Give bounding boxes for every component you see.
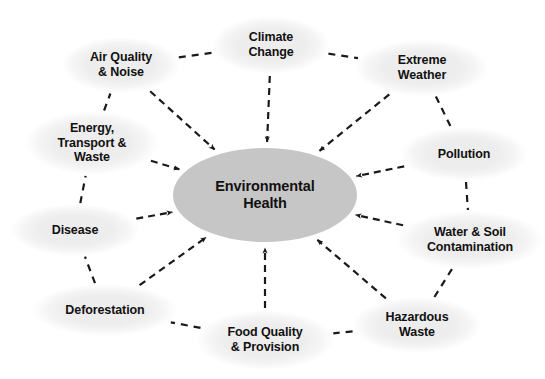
edge-energy-transport-waste-to-air-quality-noise <box>104 94 110 111</box>
node-deforestation[interactable]: Deforestation <box>32 284 178 336</box>
edge-extreme-weather-to-center <box>320 94 390 150</box>
node-label: Deforestation <box>59 303 150 318</box>
edge-pollution-to-center <box>357 166 405 176</box>
node-label: Hazardous Waste <box>379 310 454 340</box>
node-label: Pollution <box>432 147 497 162</box>
edge-air-quality-noise-to-climate-change <box>179 53 213 58</box>
edge-disease-to-energy-transport-waste <box>80 176 85 203</box>
node-food-quality-provision[interactable]: Food Quality & Provision <box>196 310 334 370</box>
node-label: Food Quality & Provision <box>221 325 308 355</box>
node-water-soil-contamination[interactable]: Water & Soil Contamination <box>396 211 544 269</box>
edge-deforestation-to-disease <box>85 257 95 284</box>
node-label: Extreme Weather <box>392 53 453 83</box>
edge-water-soil-contamination-to-hazardous-waste <box>434 269 452 297</box>
node-label: Environmental Health <box>209 178 320 212</box>
edge-air-quality-noise-to-center <box>150 91 214 149</box>
edge-pollution-to-water-soil-contamination <box>466 182 468 210</box>
edge-hazardous-waste-to-food-quality-provision <box>333 331 352 333</box>
edge-hazardous-waste-to-center <box>317 240 386 299</box>
node-pollution[interactable]: Pollution <box>400 127 528 181</box>
node-label: Climate Change <box>242 30 299 60</box>
node-disease[interactable]: Disease <box>10 204 140 256</box>
node-air-quality-noise[interactable]: Air Quality & Noise <box>62 37 180 93</box>
edge-water-soil-contamination-to-center <box>356 215 403 225</box>
node-label: Energy, Transport & Waste <box>51 121 132 165</box>
edge-climate-change-to-center <box>267 76 270 142</box>
edge-disease-to-center <box>136 212 172 219</box>
edge-energy-transport-waste-to-center <box>151 161 179 170</box>
edge-extreme-weather-to-pollution <box>436 96 451 126</box>
edge-food-quality-provision-to-deforestation <box>171 322 201 328</box>
node-label: Disease <box>46 223 105 238</box>
node-label: Air Quality & Noise <box>84 50 158 80</box>
node-hazardous-waste[interactable]: Hazardous Waste <box>352 297 482 353</box>
concept-map-canvas: Air Quality & NoiseClimate ChangeExtreme… <box>0 0 545 379</box>
edge-climate-change-to-extreme-weather <box>328 54 358 59</box>
node-label: Water & Soil Contamination <box>421 225 519 255</box>
edge-deforestation-to-center <box>140 237 207 285</box>
node-climate-change[interactable]: Climate Change <box>212 16 330 74</box>
center-node-environmental-health[interactable]: Environmental Health <box>173 148 357 242</box>
node-energy-transport-waste[interactable]: Energy, Transport & Waste <box>25 111 159 175</box>
node-extreme-weather[interactable]: Extreme Weather <box>355 40 489 96</box>
